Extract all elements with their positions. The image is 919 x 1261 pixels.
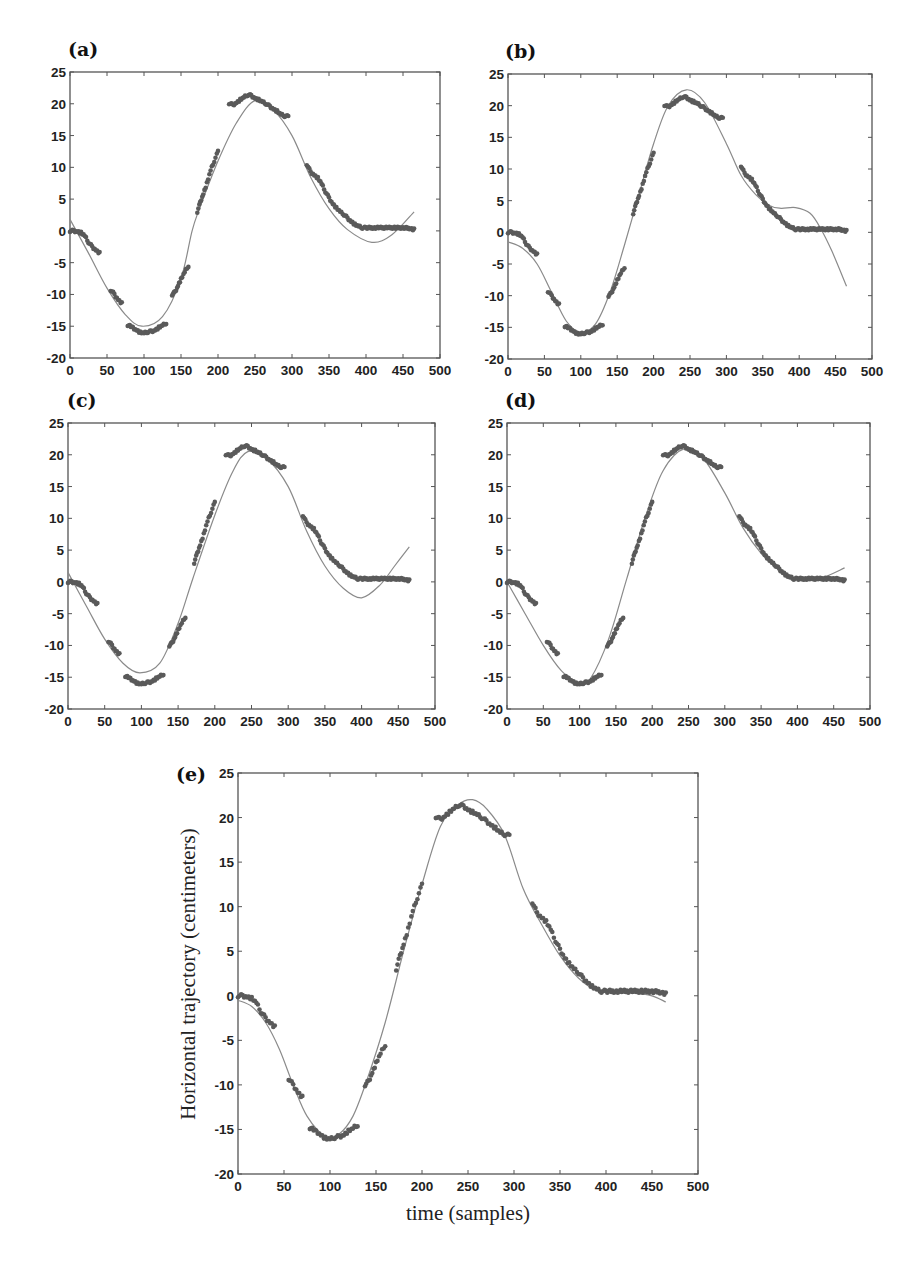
x-tick-label: 500 <box>429 363 452 378</box>
measured-markers <box>236 802 668 1142</box>
y-tick-label: 5 <box>496 194 504 209</box>
x-tick-label: 100 <box>568 714 591 729</box>
x-axis-title: time (samples) <box>406 1201 530 1225</box>
measured-markers <box>506 94 849 337</box>
y-tick-label: -20 <box>484 352 504 367</box>
y-tick-label: 15 <box>488 480 504 495</box>
y-tick-label: 25 <box>489 67 505 82</box>
measured-markers <box>68 92 417 336</box>
y-tick-label: 20 <box>219 811 234 826</box>
y-tick-label: -10 <box>44 638 64 653</box>
x-tick-label: 300 <box>277 714 300 729</box>
x-tick-label: 400 <box>355 363 378 378</box>
x-tick-label: 50 <box>536 714 551 729</box>
y-tick-label: -10 <box>484 289 504 304</box>
x-tick-label: 50 <box>97 714 112 729</box>
y-tick-label: -5 <box>52 607 64 622</box>
y-tick-label: 10 <box>51 160 66 175</box>
y-tick-label: 25 <box>51 65 67 80</box>
x-tick-label: 450 <box>387 714 410 729</box>
panel-label: (c) <box>67 389 97 411</box>
x-tick-label: 50 <box>99 363 114 378</box>
x-tick-label: 150 <box>365 1179 388 1194</box>
y-tick-label: -20 <box>44 702 64 717</box>
y-tick-label: -15 <box>44 670 64 685</box>
panel-label: (d) <box>505 389 536 411</box>
y-tick-label: -5 <box>492 257 504 272</box>
y-tick-label: 15 <box>219 855 235 870</box>
x-tick-label: 150 <box>605 714 628 729</box>
x-tick-label: 50 <box>276 1179 291 1194</box>
y-tick-label: -5 <box>222 1033 234 1048</box>
panel-d: (d)050100150200250300350400450500-20-15-… <box>483 389 881 729</box>
x-tick-label: 450 <box>392 363 415 378</box>
y-tick-label: -5 <box>491 607 503 622</box>
x-tick-label: 450 <box>824 364 847 379</box>
x-tick-label: 150 <box>170 363 193 378</box>
x-tick-label: 300 <box>503 1179 526 1194</box>
y-tick-label: 10 <box>49 511 64 526</box>
y-tick-label: -20 <box>483 702 503 717</box>
x-tick-label: 300 <box>281 363 304 378</box>
y-axis-title: Horizontal trajectory (centimeters) <box>176 828 200 1120</box>
x-tick-label: 400 <box>350 714 373 729</box>
x-tick-label: 0 <box>503 714 511 729</box>
fit-curve <box>507 448 845 685</box>
y-tick-label: 25 <box>488 416 504 431</box>
x-tick-label: 200 <box>204 714 227 729</box>
x-tick-label: 350 <box>318 363 341 378</box>
x-tick-label: 100 <box>319 1179 342 1194</box>
y-tick-label: 5 <box>56 543 64 558</box>
x-tick-label: 500 <box>861 364 884 379</box>
y-tick-label: -10 <box>214 1078 234 1093</box>
y-tick-label: 0 <box>58 224 66 239</box>
y-tick-label: -15 <box>484 320 504 335</box>
x-tick-label: 250 <box>679 364 702 379</box>
x-tick-label: 450 <box>822 714 845 729</box>
y-tick-label: 10 <box>219 900 234 915</box>
x-tick-label: 200 <box>641 714 664 729</box>
y-tick-label: -15 <box>46 319 66 334</box>
y-tick-label: 5 <box>495 543 503 558</box>
axes-frame <box>507 423 870 709</box>
x-tick-label: 200 <box>411 1179 434 1194</box>
panel-c: (c)050100150200250300350400450500-20-15-… <box>44 389 446 729</box>
fit-curve <box>68 451 409 673</box>
y-tick-label: -10 <box>46 287 66 302</box>
x-tick-label: 500 <box>687 1179 710 1194</box>
x-tick-label: 350 <box>750 714 773 729</box>
x-tick-label: 250 <box>244 363 267 378</box>
x-tick-label: 350 <box>314 714 337 729</box>
x-tick-label: 400 <box>595 1179 618 1194</box>
x-tick-label: 150 <box>167 714 190 729</box>
x-tick-label: 500 <box>424 714 447 729</box>
y-tick-label: 5 <box>58 192 66 207</box>
x-tick-label: 450 <box>641 1179 664 1194</box>
y-tick-label: 25 <box>219 766 235 781</box>
y-tick-label: -15 <box>214 1122 234 1137</box>
x-tick-label: 400 <box>788 364 811 379</box>
x-tick-label: 350 <box>549 1179 572 1194</box>
x-tick-label: 0 <box>504 364 512 379</box>
x-tick-label: 250 <box>240 714 263 729</box>
y-tick-label: 20 <box>51 97 66 112</box>
fit-curve <box>70 100 414 326</box>
measured-markers <box>505 443 847 687</box>
panel-e: (e)050100150200250300350400450500-20-15-… <box>176 763 709 1194</box>
x-tick-label: 150 <box>606 364 629 379</box>
y-tick-label: 10 <box>489 162 504 177</box>
x-tick-label: 50 <box>537 364 552 379</box>
x-tick-label: 500 <box>859 714 882 729</box>
fit-curve <box>238 799 666 1137</box>
y-tick-label: 20 <box>488 448 503 463</box>
y-tick-label: 15 <box>51 129 67 144</box>
y-tick-label: 25 <box>49 416 65 431</box>
x-tick-label: 200 <box>207 363 230 378</box>
x-tick-label: 0 <box>66 363 74 378</box>
y-tick-label: 0 <box>226 989 234 1004</box>
y-tick-label: 20 <box>489 99 504 114</box>
x-tick-label: 400 <box>786 714 809 729</box>
y-tick-label: -20 <box>46 351 66 366</box>
panel-label: (a) <box>68 38 98 60</box>
x-tick-label: 300 <box>714 714 737 729</box>
